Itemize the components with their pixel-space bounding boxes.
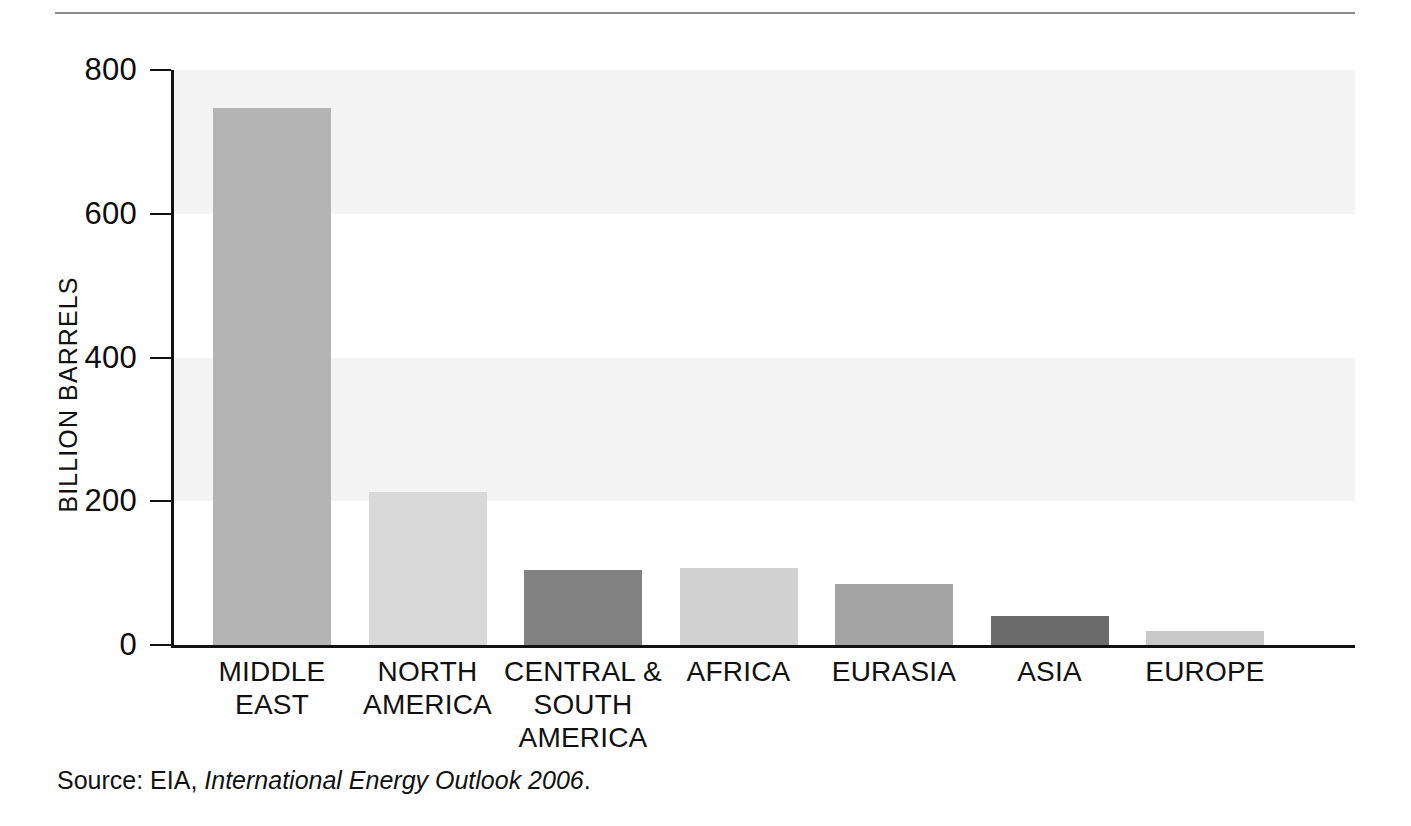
source-prefix: Source: EIA, [57, 766, 204, 794]
category-label-line: EAST [191, 688, 353, 721]
y-tick-label: 800 [84, 54, 137, 85]
y-axis-title: BILLION BARRELS [54, 265, 83, 525]
category-label-line: AMERICA [347, 688, 509, 721]
category-label: EUROPE [1124, 655, 1286, 688]
category-label: NORTHAMERICA [347, 655, 509, 721]
bar-central-south-america [524, 570, 642, 645]
x-axis-line [171, 645, 1355, 648]
category-label-line: EURASIA [813, 655, 975, 688]
category-label: ASIA [969, 655, 1131, 688]
category-label-line: AMERICA [502, 721, 664, 754]
category-label-line: AFRICA [658, 655, 820, 688]
y-tick-label: 200 [84, 485, 137, 516]
bar-north-america [369, 492, 487, 645]
top-divider-rule [55, 12, 1355, 14]
category-label: MIDDLEEAST [191, 655, 353, 721]
y-tick-mark [150, 500, 171, 502]
category-label-line: MIDDLE [191, 655, 353, 688]
plot-area [171, 70, 1355, 645]
bar-europe [1146, 631, 1264, 645]
category-label-line: NORTH [347, 655, 509, 688]
bar-eurasia [835, 584, 953, 645]
category-label: EURASIA [813, 655, 975, 688]
source-note: Source: EIA, International Energy Outloo… [57, 765, 591, 795]
bar-asia [991, 616, 1109, 645]
figure-bar-chart-proved-oil-reserves: BILLION BARRELS 8006004002000 MIDDLEEAST… [0, 0, 1411, 826]
y-tick-mark [150, 357, 171, 359]
category-label-line: ASIA [969, 655, 1131, 688]
bar-middle-east [213, 108, 331, 645]
bar-africa [680, 568, 798, 645]
category-label-line: SOUTH [502, 688, 664, 721]
category-label-line: CENTRAL & [502, 655, 664, 688]
category-label-line: EUROPE [1124, 655, 1286, 688]
y-tick-label: 0 [119, 629, 137, 660]
category-label: AFRICA [658, 655, 820, 688]
source-publication-title: International Energy Outlook 2006 [204, 766, 583, 794]
y-tick-mark [150, 69, 171, 71]
y-tick-mark [150, 213, 171, 215]
y-tick-mark [150, 644, 171, 646]
source-suffix: . [584, 766, 591, 794]
y-tick-label: 600 [84, 198, 137, 229]
category-label: CENTRAL &SOUTHAMERICA [502, 655, 664, 754]
y-tick-label: 400 [84, 342, 137, 373]
